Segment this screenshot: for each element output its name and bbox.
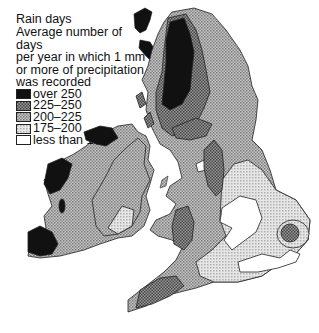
legend-description-line: per year in which 1 mm xyxy=(16,51,146,64)
swatch-dark-pattern-icon xyxy=(16,101,31,111)
swatch-light-pattern-icon xyxy=(16,124,31,134)
map-legend: Rain days Average number of days per yea… xyxy=(16,13,146,146)
swatch-white-icon xyxy=(16,135,31,145)
great-britain xyxy=(128,8,310,312)
legend-items: over 250 225–250 200–225 175–200 less th… xyxy=(16,89,146,147)
swatch-black-icon xyxy=(16,89,31,99)
isle-of-man xyxy=(160,176,168,188)
swatch-mid-pattern-icon xyxy=(16,112,31,122)
legend-description-line: Average number of days xyxy=(16,26,146,51)
legend-item-less-than-175: less than 175 xyxy=(16,135,146,147)
